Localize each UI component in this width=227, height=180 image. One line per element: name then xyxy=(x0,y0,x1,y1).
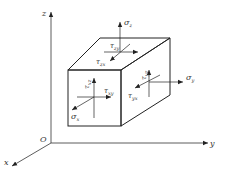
tau-xz-label: τxz xyxy=(83,79,92,89)
stress-element-diagram: z y x O σz τzy τzx τxz τxy σx τyz σy τyx xyxy=(0,0,227,180)
sigma-x-arrow xyxy=(72,97,94,110)
front-face-arrows xyxy=(72,78,111,118)
tau-zx-label: τzx xyxy=(96,58,106,67)
x-axis-label: x xyxy=(4,158,9,167)
y-axis-label: y xyxy=(209,139,215,148)
z-axis-label: z xyxy=(41,9,47,18)
tau-yz-label: τyz xyxy=(140,70,150,80)
origin-label: O xyxy=(40,135,47,144)
diagram-canvas: z y x O σz τzy τzx τxz τxy σx τyz σy τyx xyxy=(0,0,227,180)
x-axis xyxy=(12,143,51,166)
tau-zy-label: τzy xyxy=(110,42,120,52)
tau-yx-label: τyx xyxy=(128,92,138,102)
tau-xy-label: τxy xyxy=(104,87,114,97)
top-face xyxy=(68,38,170,70)
sigma-y-label: σy xyxy=(186,73,194,84)
sigma-z-label: σz xyxy=(124,18,132,28)
sigma-x-label: σx xyxy=(71,112,79,122)
